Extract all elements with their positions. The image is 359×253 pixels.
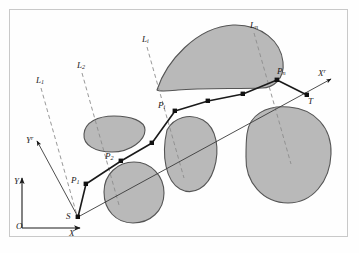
scan-line-l1 bbox=[41, 88, 78, 219]
axis-yr-line bbox=[37, 141, 78, 217]
obstacle-circle-lower bbox=[104, 162, 164, 223]
path-planning-figure: O X Y Xr Yr S T P1 P2 Pi Pn L1 L2 Li Ln bbox=[0, 0, 359, 253]
vertex-t bbox=[305, 93, 309, 97]
vertex-p1 bbox=[84, 182, 88, 186]
vertex-mid-b bbox=[206, 99, 210, 103]
vertex-mid-a bbox=[150, 141, 154, 145]
obstacle-oval-middle bbox=[165, 117, 217, 192]
vertex-pi bbox=[173, 109, 177, 113]
obstacle-leaf-top bbox=[157, 25, 283, 91]
obstacle-blob-left bbox=[84, 116, 145, 152]
vertex-mid-c bbox=[241, 92, 245, 96]
vertex-pn bbox=[275, 78, 279, 82]
diagram-canvas bbox=[0, 0, 359, 253]
vertex-p2 bbox=[119, 159, 123, 163]
vertex-s bbox=[76, 215, 80, 219]
